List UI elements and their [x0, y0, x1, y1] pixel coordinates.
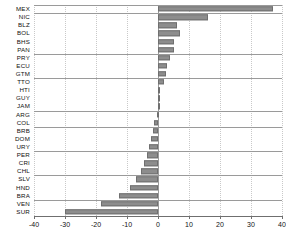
chart-row: URY — [34, 143, 282, 151]
bar-hti — [158, 87, 160, 92]
row-label-ury: URY — [16, 144, 30, 150]
chart-row: PRY — [34, 54, 282, 62]
chart-row: ECU — [34, 62, 282, 70]
row-label-blz: BLZ — [18, 22, 30, 28]
x-tick — [189, 216, 190, 219]
bar-guy — [158, 96, 160, 101]
chart-row: BRA — [34, 192, 282, 200]
row-label-dom: DOM — [15, 136, 30, 142]
x-tick-label: -40 — [29, 221, 39, 228]
row-label-cri: CRI — [19, 160, 30, 166]
chart-row: TTO — [34, 78, 282, 86]
bar-col — [154, 120, 158, 125]
bar-blz — [158, 23, 177, 28]
bar-slv — [136, 177, 158, 182]
chart-row: HTI — [34, 86, 282, 94]
chart-row: SUR — [34, 208, 282, 216]
chart-row: BLZ — [34, 21, 282, 29]
bar-per — [147, 152, 158, 157]
row-label-ecu: ECU — [16, 63, 30, 69]
x-tick-label: 40 — [278, 221, 286, 228]
x-tick — [34, 216, 35, 219]
row-label-sur: SUR — [16, 209, 30, 215]
chart-row: MEX — [34, 5, 282, 13]
plot-top-border — [34, 5, 282, 6]
bar-ecu — [158, 63, 167, 68]
chart-row: ARG — [34, 111, 282, 119]
chart-row: CHL — [34, 167, 282, 175]
row-label-pan: PAN — [17, 47, 30, 53]
x-tick — [65, 216, 66, 219]
x-tick — [158, 216, 159, 219]
row-label-bhs: BHS — [17, 38, 30, 44]
chart-row: COL — [34, 119, 282, 127]
row-label-per: PER — [17, 152, 30, 158]
x-tick-label: 20 — [216, 221, 224, 228]
row-label-pry: PRY — [17, 55, 30, 61]
x-tick — [127, 216, 128, 219]
bar-cri — [144, 161, 158, 166]
chart-row: JAM — [34, 102, 282, 110]
bar-bra — [119, 193, 158, 198]
bar-pry — [158, 55, 170, 60]
bar-nic — [158, 14, 208, 19]
x-tick — [220, 216, 221, 219]
x-axis: -40-30-20-10010203040 — [34, 216, 282, 238]
row-label-jam: JAM — [17, 103, 30, 109]
bar-chl — [141, 169, 158, 174]
x-tick — [96, 216, 97, 219]
chart-row: GTM — [34, 70, 282, 78]
row-label-nic: NIC — [19, 14, 30, 20]
row-label-arg: ARG — [16, 111, 30, 117]
bar-gtm — [158, 71, 166, 76]
bar-brb — [153, 128, 158, 133]
x-tick-label: -10 — [122, 221, 132, 228]
group-separator — [34, 200, 282, 201]
plot-area: MEXNICBLZBOLBHSPANPRYECUGTMTTOHTIGUYJAMA… — [34, 5, 282, 216]
chart-row: SLV — [34, 175, 282, 183]
group-separator — [34, 54, 282, 55]
row-label-bra: BRA — [17, 193, 30, 199]
bar-tto — [158, 79, 164, 84]
x-tick-label: -30 — [60, 221, 70, 228]
x-tick — [251, 216, 252, 219]
x-tick-label: 0 — [156, 221, 160, 228]
group-separator — [34, 13, 282, 14]
group-separator — [34, 127, 282, 128]
row-label-tto: TTO — [17, 79, 30, 85]
row-label-hti: HTI — [19, 87, 30, 93]
x-tick — [282, 216, 283, 219]
row-label-guy: GUY — [16, 95, 30, 101]
chart-row: PER — [34, 151, 282, 159]
group-separator — [34, 111, 282, 112]
group-separator — [34, 175, 282, 176]
chart-row: HND — [34, 184, 282, 192]
chart-row: CRI — [34, 159, 282, 167]
row-label-brb: BRB — [17, 128, 30, 134]
row-label-col: COL — [17, 120, 30, 126]
diverging-bar-chart: MEXNICBLZBOLBHSPANPRYECUGTMTTOHTIGUYJAMA… — [0, 0, 286, 238]
row-label-hnd: HND — [16, 184, 30, 190]
chart-row: VEN — [34, 200, 282, 208]
chart-row: BHS — [34, 37, 282, 45]
x-tick-label: 30 — [247, 221, 255, 228]
bar-jam — [158, 104, 160, 109]
chart-row: BOL — [34, 29, 282, 37]
chart-row: PAN — [34, 46, 282, 54]
gridline — [282, 5, 283, 216]
group-separator — [34, 151, 282, 152]
row-label-bol: BOL — [17, 30, 30, 36]
bar-sur — [65, 209, 158, 214]
chart-row: BRB — [34, 127, 282, 135]
bar-mex — [158, 6, 273, 11]
bar-ury — [149, 144, 158, 149]
bar-hnd — [130, 185, 158, 190]
row-label-ven: VEN — [17, 201, 30, 207]
row-label-chl: CHL — [17, 168, 30, 174]
group-separator — [34, 78, 282, 79]
bar-bol — [158, 31, 180, 36]
x-tick-label: -20 — [91, 221, 101, 228]
bar-dom — [151, 136, 158, 141]
bar-ven — [101, 201, 158, 206]
chart-row: GUY — [34, 94, 282, 102]
